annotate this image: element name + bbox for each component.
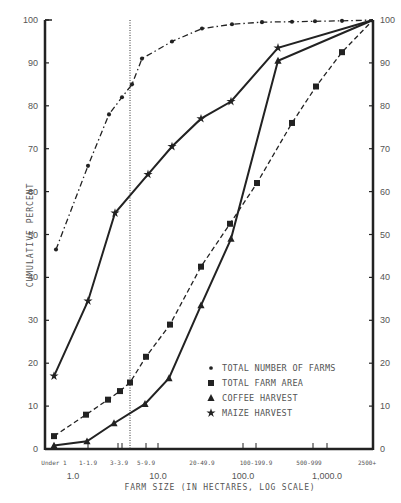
square-marker-icon [83, 412, 89, 418]
y-tick-label: 80 [28, 101, 38, 111]
x-category-label: 20-49.9 [189, 459, 215, 466]
circle-marker-icon [260, 20, 264, 24]
x-category-label: 100-199.9 [240, 459, 273, 466]
circle-marker-icon [313, 19, 317, 23]
x-major-label: 1,000.0 [312, 471, 342, 481]
y-tick-label-right: 30 [380, 315, 390, 325]
square-marker-icon [143, 354, 149, 360]
x-category-label: 500-999 [296, 459, 322, 466]
x-category-label: 5-9.9 [137, 459, 155, 466]
square-marker-icon [167, 322, 173, 328]
star-marker-icon [49, 371, 58, 380]
y-tick-label-right: 60 [380, 187, 390, 197]
x-major-label: 1.0 [67, 471, 80, 481]
y-tick-label: 20 [28, 358, 38, 368]
x-category-label: 3-3.9 [110, 459, 128, 466]
y-tick-label: 100 [23, 15, 38, 25]
y-tick-label-right: 40 [380, 272, 390, 282]
y-tick-label: 0 [33, 444, 38, 454]
legend-label: COFFEE HARVEST [222, 393, 298, 403]
circle-marker-icon [140, 57, 144, 61]
star-marker-icon [206, 408, 215, 417]
triangle-marker-icon [207, 394, 214, 401]
circle-marker-icon [130, 82, 134, 86]
y-tick-label: 70 [28, 144, 38, 154]
legend: TOTAL NUMBER OF FARMSTOTAL FARM AREACOFF… [206, 363, 335, 418]
series-line [56, 20, 373, 250]
circle-marker-icon [107, 112, 111, 116]
square-marker-icon [254, 180, 260, 186]
square-marker-icon [51, 433, 57, 439]
circle-marker-icon [209, 366, 213, 370]
square-marker-icon [117, 388, 123, 394]
circle-marker-icon [170, 39, 174, 43]
square-marker-icon [339, 49, 345, 55]
y-tick-label-right: 50 [380, 230, 390, 240]
y-tick-label-right: 90 [380, 58, 390, 68]
y-tick-label: 30 [28, 315, 38, 325]
axes: 0010102020303040405050606070708080909010… [23, 15, 395, 481]
y-tick-label-right: 20 [380, 358, 390, 368]
x-category-label: 2500+ [358, 459, 376, 466]
circle-marker-icon [86, 164, 90, 168]
y-tick-label-right: 70 [380, 144, 390, 154]
y-tick-label-right: 100 [380, 15, 395, 25]
cumulative-percent-chart: 0010102020303040405050606070708080909010… [0, 0, 401, 503]
x-major-label: 100.0 [232, 471, 255, 481]
series-maize-harvest [49, 20, 373, 380]
triangle-marker-icon [165, 374, 172, 381]
y-tick-label-right: 10 [380, 401, 390, 411]
circle-marker-icon [120, 95, 124, 99]
y-axis-label: CUMULATIVE PERCENT [26, 183, 35, 288]
x-major-label: 10.0 [149, 471, 167, 481]
legend-label: TOTAL NUMBER OF FARMS [222, 363, 336, 373]
y-tick-label: 10 [28, 401, 38, 411]
circle-marker-icon [290, 20, 294, 24]
circle-marker-icon [340, 19, 344, 23]
star-marker-icon [83, 296, 92, 305]
series-line [54, 20, 373, 436]
circle-marker-icon [230, 22, 234, 26]
legend-label: MAIZE HARVEST [222, 408, 292, 418]
square-marker-icon [198, 264, 204, 270]
square-marker-icon [227, 221, 233, 227]
y-tick-label-right: 80 [380, 101, 390, 111]
x-axis-label: FARM SIZE (IN HECTARES, LOG SCALE) [125, 483, 316, 492]
triangle-marker-icon [197, 301, 204, 308]
circle-marker-icon [54, 247, 58, 251]
square-marker-icon [105, 397, 111, 403]
y-tick-label-right: 0 [380, 444, 385, 454]
series-total-number-of-farms [54, 19, 373, 252]
circle-marker-icon [200, 27, 204, 31]
series-total-farm-area [51, 20, 373, 439]
legend-label: TOTAL FARM AREA [222, 378, 303, 388]
triangle-marker-icon [227, 235, 234, 242]
square-marker-icon [289, 120, 295, 126]
square-marker-icon [313, 83, 319, 89]
square-marker-icon [208, 380, 214, 386]
y-tick-label: 90 [28, 58, 38, 68]
x-category-label: Under 1 [41, 459, 67, 466]
square-marker-icon [127, 380, 133, 386]
x-category-label: 1-1.9 [79, 459, 97, 466]
